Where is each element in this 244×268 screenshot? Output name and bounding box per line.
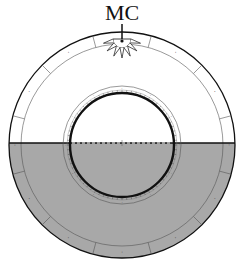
mc-label: MC (105, 0, 139, 25)
outer-ring-label: · (121, 249, 123, 256)
inner-ring-label: · (177, 144, 182, 145)
outer-ring-label: · (226, 144, 233, 146)
sun-center-dot (120, 39, 123, 42)
outer-ring-label: · (11, 144, 18, 146)
inner-ring-label: · (63, 144, 68, 145)
inner-ring-label: · (121, 200, 122, 205)
astrological-chart: ············ ············ MC (0, 0, 244, 268)
inner-ring-label: · (121, 86, 122, 91)
